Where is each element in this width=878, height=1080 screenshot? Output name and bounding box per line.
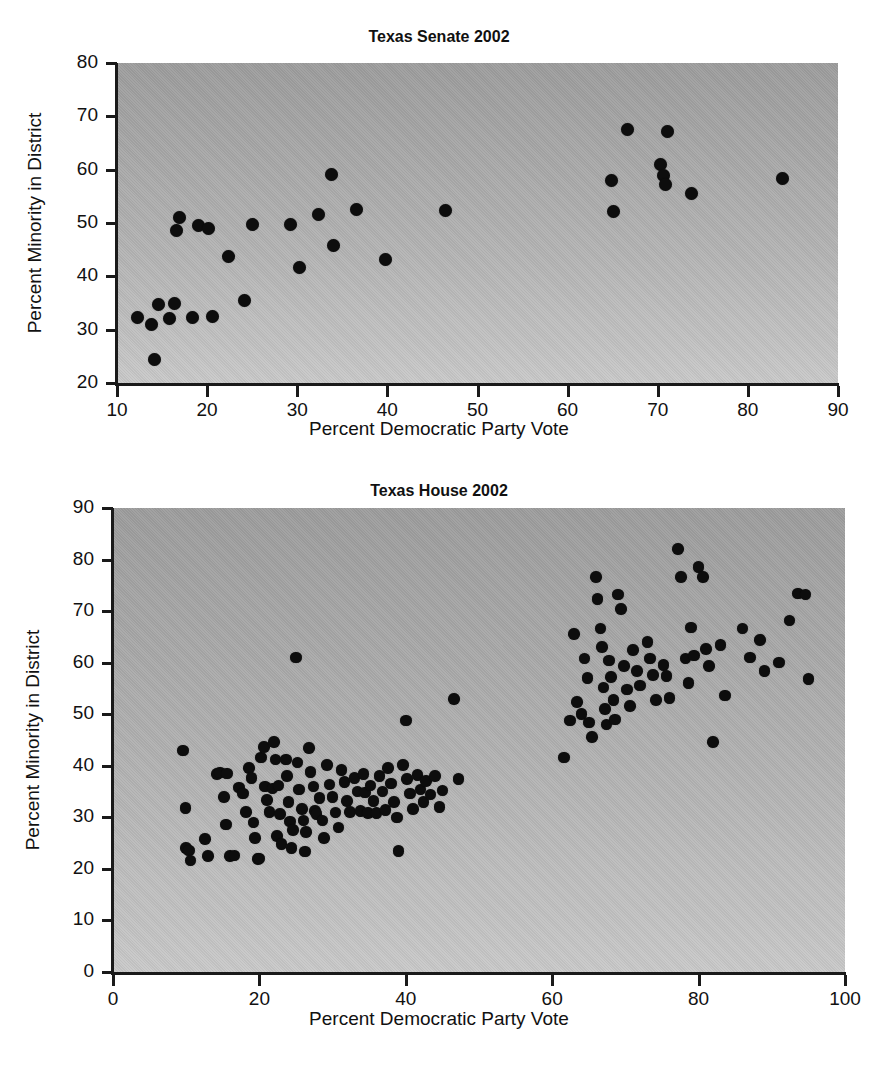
house-x-axis-title: Percent Democratic Party Vote bbox=[0, 1008, 878, 1030]
senate-plot-area bbox=[117, 63, 838, 383]
y-axis-tick-label: 60 bbox=[8, 652, 94, 671]
y-axis-tick bbox=[102, 971, 113, 974]
y-axis-tick bbox=[106, 329, 117, 332]
x-axis-tick bbox=[405, 975, 408, 986]
x-axis-tick bbox=[747, 386, 750, 397]
y-axis-tick bbox=[102, 610, 113, 613]
y-axis-tick-label: 30 bbox=[8, 806, 94, 825]
x-axis-tick-label: 20 bbox=[219, 989, 299, 1008]
y-axis-tick bbox=[102, 507, 113, 510]
x-axis-tick-label: 50 bbox=[438, 400, 518, 419]
x-axis-tick bbox=[477, 386, 480, 397]
y-axis-tick-label: 10 bbox=[8, 909, 94, 928]
y-axis-tick bbox=[106, 382, 117, 385]
y-axis-tick-label: 0 bbox=[8, 961, 94, 980]
x-axis-tick-label: 90 bbox=[798, 400, 878, 419]
y-axis-tick bbox=[102, 713, 113, 716]
figure-page: Texas Senate 2002 2030405060708010203040… bbox=[0, 0, 878, 1080]
y-axis-tick bbox=[106, 222, 117, 225]
x-axis-tick-label: 60 bbox=[528, 400, 608, 419]
x-axis-tick bbox=[296, 386, 299, 397]
y-axis-tick bbox=[102, 816, 113, 819]
y-axis-tick bbox=[102, 868, 113, 871]
x-axis-tick bbox=[837, 386, 840, 397]
x-axis-tick bbox=[657, 386, 660, 397]
senate-plot-background bbox=[117, 63, 838, 383]
senate-scatter-figure: Texas Senate 2002 2030405060708010203040… bbox=[0, 0, 878, 465]
x-axis-tick bbox=[112, 975, 115, 986]
house-chart-title: Texas House 2002 bbox=[0, 482, 878, 500]
y-axis-tick bbox=[106, 115, 117, 118]
x-axis-line bbox=[111, 972, 846, 975]
y-axis-tick bbox=[102, 919, 113, 922]
y-axis-tick-label: 50 bbox=[8, 703, 94, 722]
y-axis-tick bbox=[102, 559, 113, 562]
senate-chart-title: Texas Senate 2002 bbox=[0, 28, 878, 46]
x-axis-tick bbox=[116, 386, 119, 397]
x-axis-tick bbox=[551, 975, 554, 986]
x-axis-tick bbox=[567, 386, 570, 397]
y-axis-tick bbox=[106, 169, 117, 172]
y-axis-tick-label: 20 bbox=[8, 858, 94, 877]
x-axis-tick-label: 100 bbox=[805, 989, 878, 1008]
y-axis-tick bbox=[106, 275, 117, 278]
senate-y-axis-title: Percent Minority in District bbox=[24, 63, 46, 383]
x-axis-tick-label: 20 bbox=[167, 400, 247, 419]
x-axis-tick bbox=[698, 975, 701, 986]
y-axis-tick-label: 40 bbox=[8, 755, 94, 774]
house-scatter-figure: Texas House 2002 01020304050607080900204… bbox=[0, 465, 878, 1080]
x-axis-tick-label: 10 bbox=[77, 400, 157, 419]
x-axis-tick-label: 40 bbox=[366, 989, 446, 1008]
senate-x-axis-title: Percent Democratic Party Vote bbox=[0, 418, 878, 440]
y-axis-tick bbox=[102, 765, 113, 768]
y-axis-tick bbox=[106, 62, 117, 65]
x-axis-tick-label: 80 bbox=[708, 400, 788, 419]
y-axis-tick-label: 80 bbox=[8, 549, 94, 568]
x-axis-tick-label: 30 bbox=[257, 400, 337, 419]
x-axis-tick bbox=[844, 975, 847, 986]
x-axis-tick-label: 80 bbox=[659, 989, 739, 1008]
x-axis-tick-label: 60 bbox=[512, 989, 592, 1008]
x-axis-tick bbox=[206, 386, 209, 397]
house-y-axis-title: Percent Minority in District bbox=[22, 508, 44, 972]
y-axis-tick bbox=[102, 662, 113, 665]
x-axis-tick bbox=[386, 386, 389, 397]
y-axis-tick-label: 70 bbox=[8, 600, 94, 619]
x-axis-tick-label: 40 bbox=[347, 400, 427, 419]
y-axis-line bbox=[111, 508, 114, 974]
x-axis-tick bbox=[258, 975, 261, 986]
x-axis-tick-label: 70 bbox=[618, 400, 698, 419]
house-plot-area bbox=[113, 508, 845, 972]
house-plot-background bbox=[113, 508, 845, 972]
y-axis-tick-label: 90 bbox=[8, 497, 94, 516]
x-axis-tick-label: 0 bbox=[73, 989, 153, 1008]
